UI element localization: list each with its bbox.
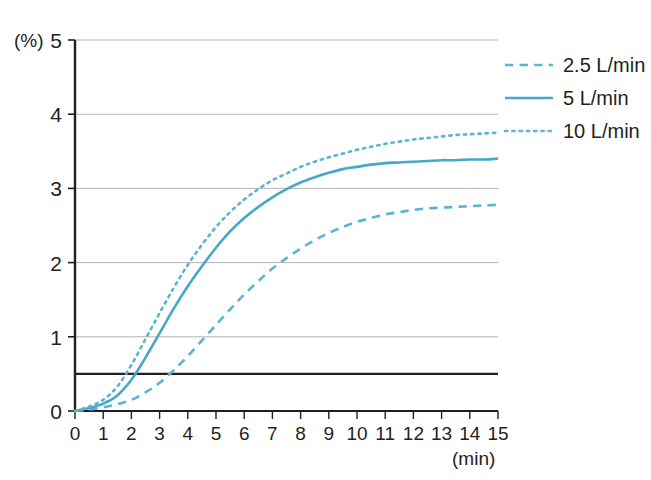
x-axis-tick-label: 9: [324, 423, 335, 444]
x-axis-tick-label: 1: [98, 423, 109, 444]
legend-label-3: 10 L/min: [563, 120, 640, 142]
x-axis-tick-label: 10: [346, 423, 367, 444]
x-axis-tick-label: 6: [239, 423, 250, 444]
data-series: [75, 133, 498, 411]
x-axis-tick-labels: 0123456789101112131415: [70, 423, 509, 444]
x-axis-tick-label: 14: [459, 423, 481, 444]
x-axis-unit-label: (min): [452, 448, 495, 469]
legend-label-2: 5 L/min: [563, 87, 629, 109]
x-axis-tick-label: 15: [487, 423, 508, 444]
series-line-1: [75, 205, 498, 411]
x-axis-tick-label: 11: [375, 423, 395, 444]
x-axis-tick-label: 0: [70, 423, 81, 444]
y-axis-tick-label: 1: [50, 326, 62, 349]
x-axis-tick-label: 8: [295, 423, 306, 444]
legend: 2.5 L/min5 L/min10 L/min: [505, 54, 645, 142]
y-axis-tick-label: 2: [50, 252, 62, 275]
chart-container: 012345 0123456789101112131415 (%) (min) …: [0, 0, 651, 480]
x-axis-tick-label: 4: [183, 423, 194, 444]
y-axis-tick-label: 0: [50, 400, 62, 423]
legend-label-1: 2.5 L/min: [563, 54, 645, 76]
x-axis-tick-label: 13: [431, 423, 452, 444]
x-axis-ticks: [75, 411, 498, 419]
x-axis-tick-label: 3: [154, 423, 165, 444]
x-axis-tick-label: 5: [211, 423, 222, 444]
line-chart: 012345 0123456789101112131415 (%) (min) …: [0, 0, 651, 480]
y-axis-tick-label: 3: [50, 177, 62, 200]
x-axis-tick-label: 7: [267, 423, 278, 444]
x-axis-tick-label: 12: [403, 423, 424, 444]
x-axis-tick-label: 2: [126, 423, 137, 444]
y-axis-tick-label: 5: [50, 29, 62, 52]
y-axis-unit-label: (%): [14, 30, 44, 51]
y-axis-tick-label: 4: [50, 103, 62, 126]
y-axis-tick-labels: 012345: [50, 29, 62, 423]
